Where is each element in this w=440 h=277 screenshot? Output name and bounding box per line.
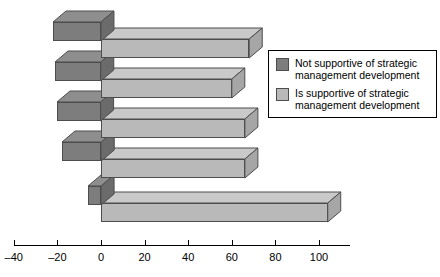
x-axis-tick-label: 80 [269,251,281,263]
x-axis-tick-label: 100 [310,251,328,263]
x-axis-tick-label: –20 [48,251,66,263]
bar-not-supportive [57,102,101,121]
bar-3d-faces [53,11,116,43]
legend-label-is-supportive: Is supportive of strategic management de… [295,87,419,111]
x-axis-tick [145,240,146,246]
bar-3d-faces [101,148,260,180]
bar-not-supportive [55,62,101,81]
bar-is-supportive [101,159,245,178]
chart-legend: Not supportive of strategic management d… [268,50,437,118]
legend-swatch-is-supportive [276,88,289,101]
bar-3d-faces [101,108,260,140]
bar-is-supportive [101,203,328,222]
x-axis-tick [14,240,15,246]
bar-is-supportive [101,119,245,138]
x-axis-tick-label: 0 [98,251,104,263]
x-axis-tick-label: 60 [226,251,238,263]
x-axis-tick [57,240,58,246]
bar-not-supportive [53,22,101,41]
bar-3d-faces [101,68,247,100]
x-axis-tick [275,240,276,246]
bar-3d-faces [101,192,343,224]
x-axis-tick [319,240,320,246]
x-axis-tick [101,240,102,246]
x-axis-tick [232,240,233,246]
legend-item[interactable]: Is supportive of strategic management de… [276,87,430,111]
x-axis-tick [188,240,189,246]
bar-chart: –40–20020406080100 Not supportive of str… [0,0,440,277]
bar-is-supportive [101,39,249,58]
legend-item[interactable]: Not supportive of strategic management d… [276,57,430,81]
bar-3d-faces [101,28,264,60]
x-axis-tick-label: –40 [5,251,23,263]
bar-not-supportive [62,142,101,161]
legend-label-not-supportive: Not supportive of strategic management d… [295,57,419,81]
legend-swatch-not-supportive [276,58,289,71]
x-axis-line [14,245,350,246]
bar-is-supportive [101,79,232,98]
plot-area [0,0,440,250]
x-axis-tick-label: 40 [182,251,194,263]
x-axis-tick-label: 20 [138,251,150,263]
bar-not-supportive [88,186,101,205]
